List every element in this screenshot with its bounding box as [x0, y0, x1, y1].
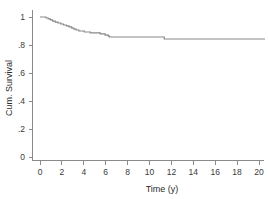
x-tick-label: 12 [167, 167, 177, 177]
y-tick-label: .4 [18, 96, 25, 106]
x-tick-label: 2 [60, 167, 65, 177]
x-tick-label: 18 [232, 167, 242, 177]
y-axis-ticks: 0.2.4.6.81 [18, 12, 33, 162]
y-tick-label: .2 [18, 124, 25, 134]
kaplan-meier-plot: 0.2.4.6.81 02468101214161820 Time (y) Cu… [0, 0, 268, 199]
x-tick-label: 4 [81, 167, 86, 177]
x-tick-label: 0 [38, 167, 43, 177]
x-axis-title: Time (y) [146, 184, 179, 194]
survival-curve-group [40, 17, 265, 39]
survival-chart-figure: 0.2.4.6.81 02468101214161820 Time (y) Cu… [0, 0, 268, 199]
y-tick-label: 1 [20, 12, 25, 22]
x-tick-label: 8 [125, 167, 130, 177]
x-tick-label: 6 [103, 167, 108, 177]
y-tick-label: 0 [20, 152, 25, 162]
x-tick-label: 14 [189, 167, 199, 177]
y-tick-label: .6 [18, 68, 25, 78]
x-axis-ticks: 02468101214161820 [38, 161, 264, 178]
y-tick-label: .8 [18, 40, 25, 50]
x-tick-label: 16 [210, 167, 220, 177]
y-axis-title: Cum. Survival [4, 60, 14, 116]
x-tick-label: 20 [254, 167, 264, 177]
survival-curve-line [40, 17, 265, 39]
x-tick-label: 10 [145, 167, 155, 177]
